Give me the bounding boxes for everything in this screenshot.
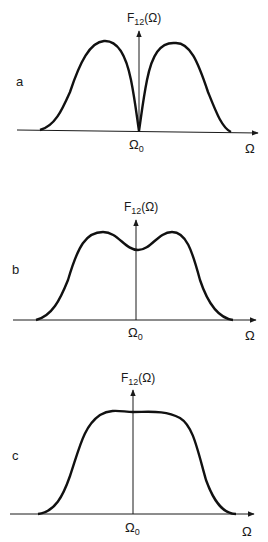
spectrum-curve-a [40, 41, 231, 132]
panel-label-c: c [12, 448, 19, 463]
panel-a: a F12(Ω) Ω0 Ω [16, 11, 258, 156]
center-tick-label-b: Ω0 [128, 325, 143, 342]
y-axis-label-a: F12(Ω) [127, 11, 161, 27]
x-axis [17, 130, 258, 133]
y-axis-label-b: F12(Ω) [124, 200, 158, 216]
x-axis-label-c: Ω [242, 524, 252, 539]
spectrum-curve-c [38, 411, 236, 514]
x-axis-label-a: Ω [245, 141, 255, 156]
center-tick-label-c: Ω0 [125, 520, 140, 537]
panel-b: b F12(Ω) Ω0 Ω [12, 200, 256, 343]
y-axis-label-c: F12(Ω) [121, 371, 155, 387]
panel-label-a: a [16, 74, 24, 89]
spectrum-curve-b [36, 232, 233, 320]
panel-label-b: b [12, 262, 19, 277]
x-axis-label-b: Ω [245, 328, 255, 343]
panel-c: c F12(Ω) Ω0 Ω [10, 371, 254, 539]
center-tick-label-a: Ω0 [129, 137, 144, 154]
spectral-diagram: a F12(Ω) Ω0 Ω b F12(Ω) Ω0 Ω c F12(Ω) Ω0 … [0, 0, 268, 542]
